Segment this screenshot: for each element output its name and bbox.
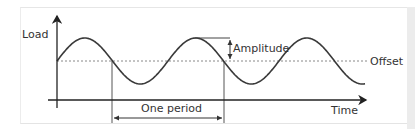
sine-load-diagram: Load Time Offset Amplitude One period — [0, 0, 415, 129]
y-axis-label: Load — [22, 28, 48, 41]
offset-label: Offset — [370, 55, 404, 68]
amplitude-label: Amplitude — [233, 42, 290, 55]
period-label: One period — [141, 102, 202, 115]
x-axis-label: Time — [330, 104, 358, 117]
